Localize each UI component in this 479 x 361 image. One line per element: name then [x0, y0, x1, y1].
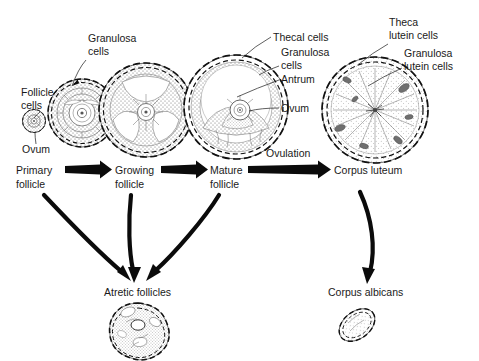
stage-primary-line1: Primary	[16, 164, 53, 176]
stage-growing-line1: Growing	[115, 164, 154, 176]
corpus-luteum-structure	[322, 57, 428, 163]
callout-granulosa-cells-line2: cells	[88, 45, 109, 57]
stage-primary-line2: follicle	[16, 178, 45, 190]
follicle-development-diagram: Follicle cells Ovum Granulosa cells Thec…	[0, 0, 479, 361]
growing-follicle	[99, 63, 193, 157]
callout-antrum-label: Antrum	[281, 73, 315, 85]
callout-thecal-cells-label: Thecal cells	[273, 31, 328, 43]
atretic-follicle-structure	[110, 303, 170, 360]
callout-theca-lutein-line2: lutein cells	[389, 29, 438, 41]
callout-theca-lutein-line1: Theca	[389, 16, 418, 28]
outcome-corpus-albicans-label: Corpus albicans	[328, 286, 403, 298]
primordial-follicle	[23, 110, 46, 133]
outcome-atretic-label: Atretic follicles	[104, 286, 171, 298]
stage-mature-line1: Mature	[210, 164, 243, 176]
stage-corpus-luteum-label: Corpus luteum	[334, 164, 403, 176]
figure-canvas: Follicle cells Ovum Granulosa cells Thec…	[0, 0, 479, 361]
callout-granulosa-cells-line1: Granulosa	[88, 32, 137, 44]
callout-granulosa-mature-line1: Granulosa	[281, 46, 330, 58]
stage-growing-line2: follicle	[115, 178, 144, 190]
callout-ovum-primordial-label: Ovum	[22, 143, 50, 155]
mature-follicle	[184, 55, 288, 159]
flow-arrow-ovulation-caption: Ovulation	[266, 147, 311, 159]
callout-follicle-cells-line1: Follicle	[21, 86, 54, 98]
stage-mature-line2: follicle	[210, 178, 239, 190]
stage-label-corpus-luteum: Corpus luteum	[334, 164, 403, 176]
callout-granulosa-mature-line2: cells	[281, 59, 302, 71]
callout-granulosa-lutein-line1: Granulosa	[404, 47, 453, 59]
callout-granulosa-lutein-line2: lutein cells	[404, 60, 453, 72]
callout-ovum-mature-label: Ovum	[281, 102, 309, 114]
callout-follicle-cells-line2: cells	[21, 99, 42, 111]
